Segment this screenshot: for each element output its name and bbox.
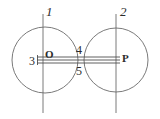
label-band-bottom-5: 5 [76, 65, 82, 77]
label-line-2: 2 [120, 5, 127, 18]
label-line-1: 1 [46, 5, 53, 18]
label-left-end-3: 3 [29, 55, 35, 67]
label-center-p: P [122, 53, 129, 64]
label-center-o: O [45, 49, 54, 60]
figure-canvas: 1 2 3 4 5 O P [0, 0, 160, 119]
geometry-diagram [0, 0, 160, 119]
label-band-top-4: 4 [76, 44, 82, 56]
